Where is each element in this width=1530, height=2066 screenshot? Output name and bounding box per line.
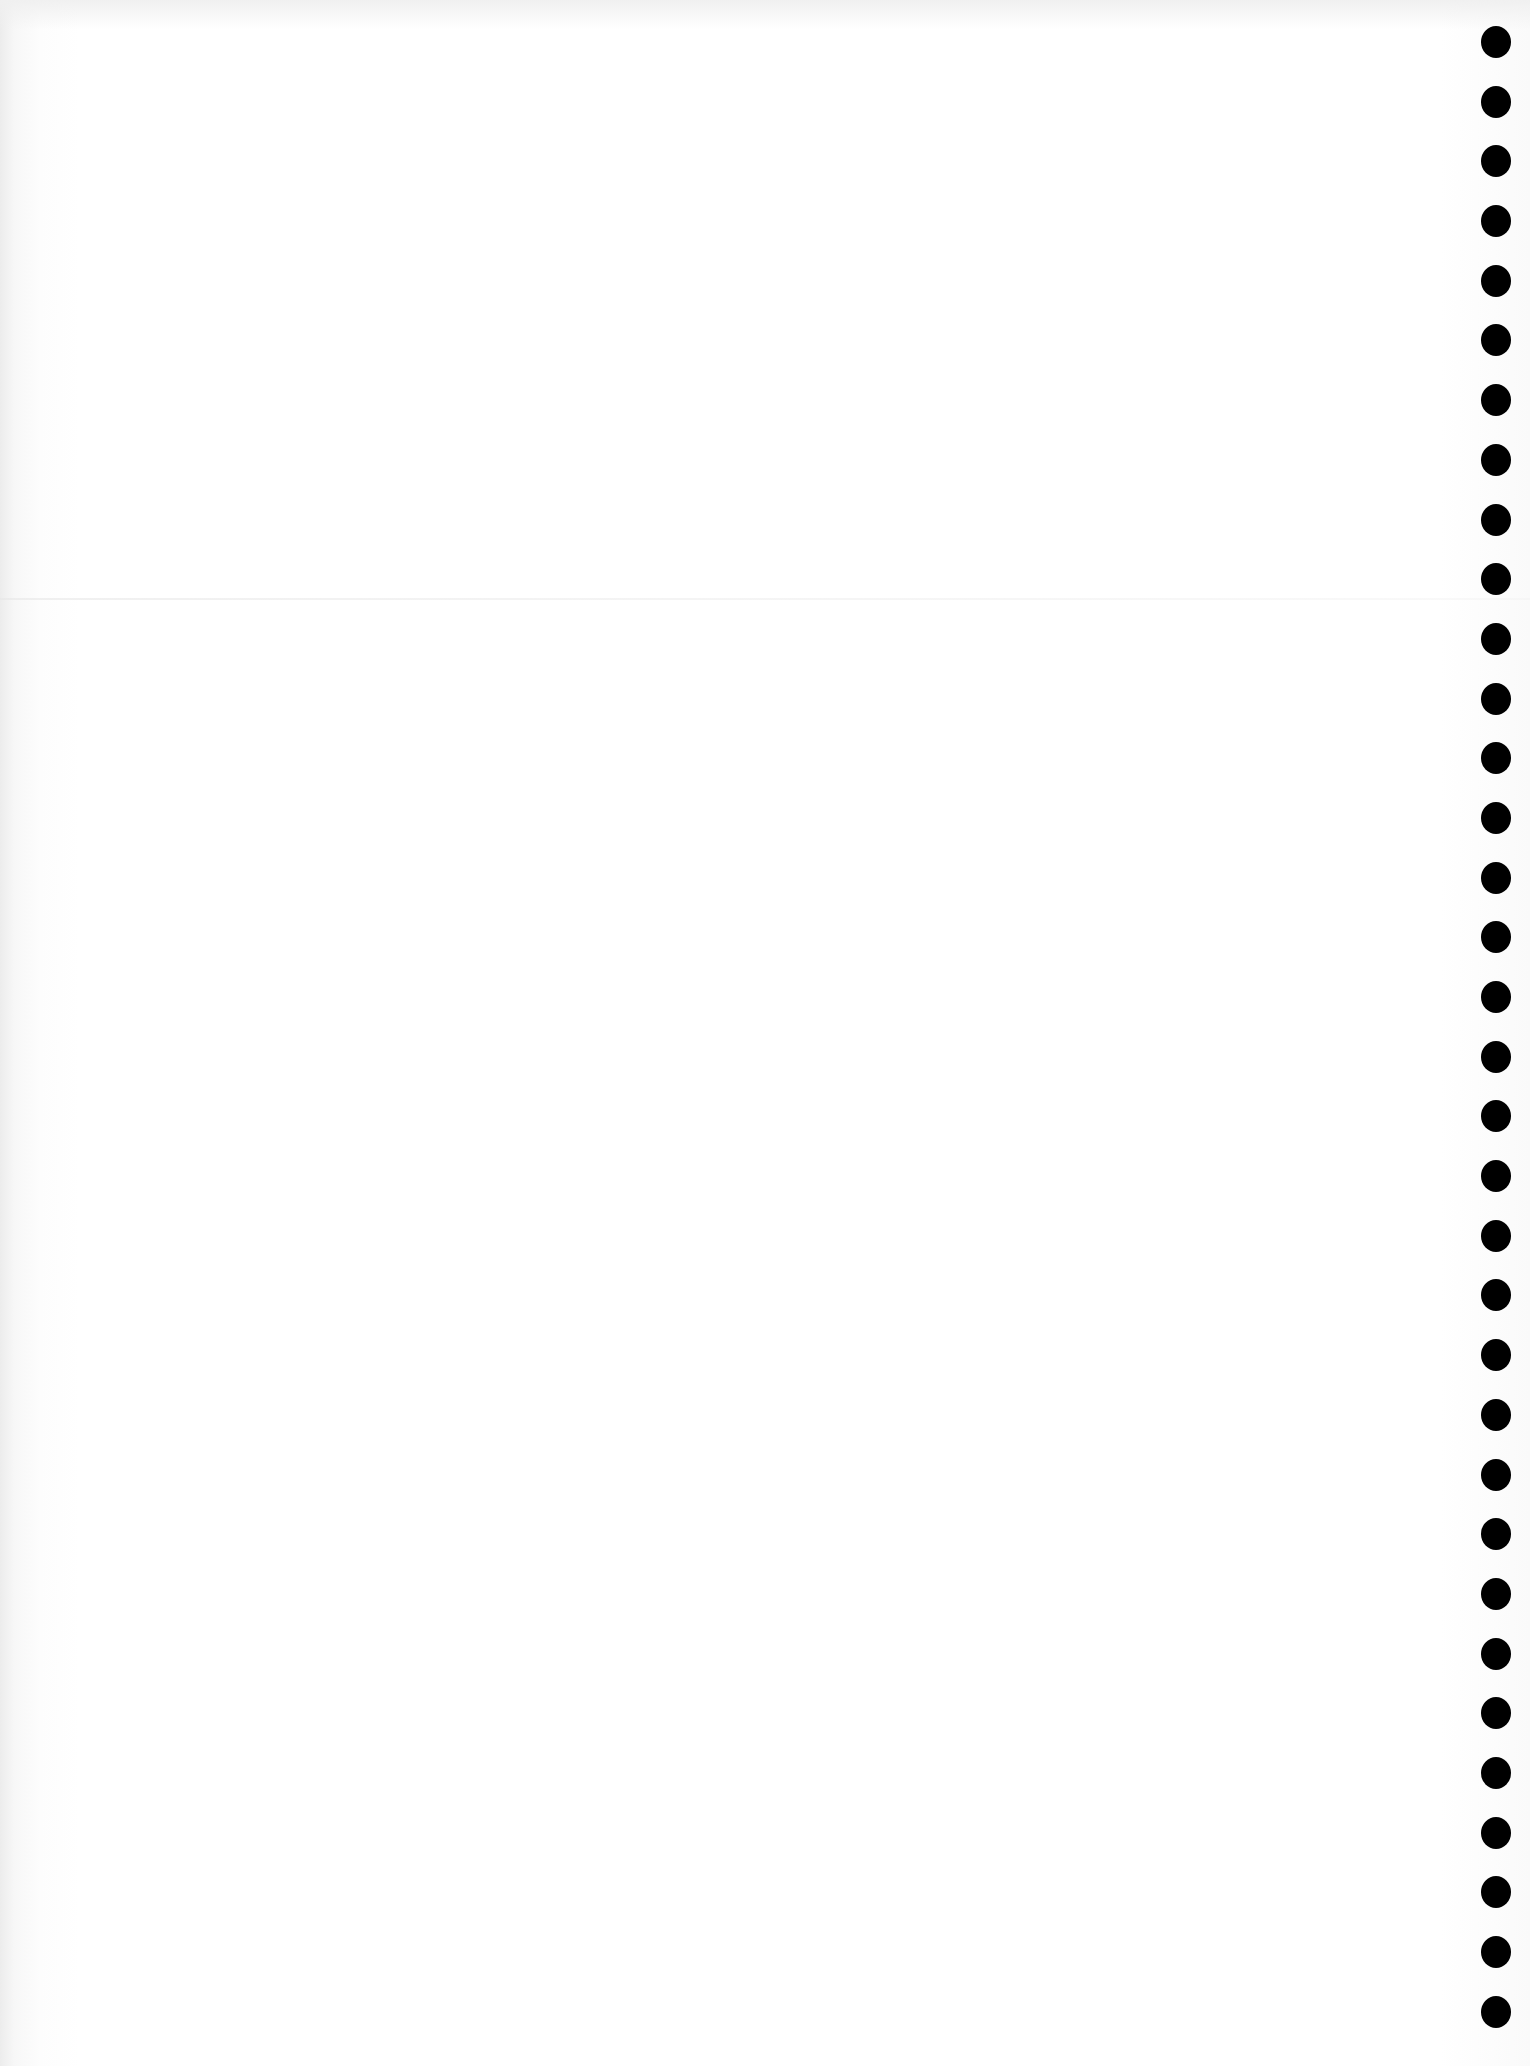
blank-paper-sheet	[0, 0, 1530, 2066]
punch-hole	[1481, 742, 1511, 774]
punch-hole	[1481, 1279, 1511, 1311]
punch-hole	[1481, 1638, 1511, 1670]
punch-hole	[1481, 921, 1511, 953]
punch-hole	[1481, 1399, 1511, 1431]
punch-hole	[1481, 862, 1511, 894]
punch-hole	[1481, 623, 1511, 655]
punch-hole	[1481, 504, 1511, 536]
punch-hole	[1481, 1160, 1511, 1192]
punch-hole	[1481, 1876, 1511, 1908]
scan-edge-shadow	[0, 0, 1530, 30]
punch-hole	[1481, 802, 1511, 834]
punch-hole	[1481, 1459, 1511, 1491]
punch-hole	[1481, 1996, 1511, 2028]
punch-hole	[1481, 1757, 1511, 1789]
punch-hole	[1481, 265, 1511, 297]
punch-hole	[1481, 205, 1511, 237]
punch-hole	[1481, 1936, 1511, 1968]
punch-hole	[1481, 26, 1511, 58]
punch-hole	[1481, 563, 1511, 595]
fold-line	[0, 598, 1530, 600]
punch-hole	[1481, 1518, 1511, 1550]
punch-hole	[1481, 1220, 1511, 1252]
punch-hole	[1481, 324, 1511, 356]
punch-hole	[1481, 1339, 1511, 1371]
punch-hole-column	[1481, 26, 1513, 2028]
punch-hole	[1481, 1697, 1511, 1729]
punch-hole	[1481, 1041, 1511, 1073]
punch-hole	[1481, 86, 1511, 118]
punch-hole	[1481, 1578, 1511, 1610]
punch-hole	[1481, 1100, 1511, 1132]
punch-hole	[1481, 1817, 1511, 1849]
punch-hole	[1481, 145, 1511, 177]
punch-hole	[1481, 384, 1511, 416]
punch-hole	[1481, 981, 1511, 1013]
punch-hole	[1481, 683, 1511, 715]
punch-hole	[1481, 444, 1511, 476]
